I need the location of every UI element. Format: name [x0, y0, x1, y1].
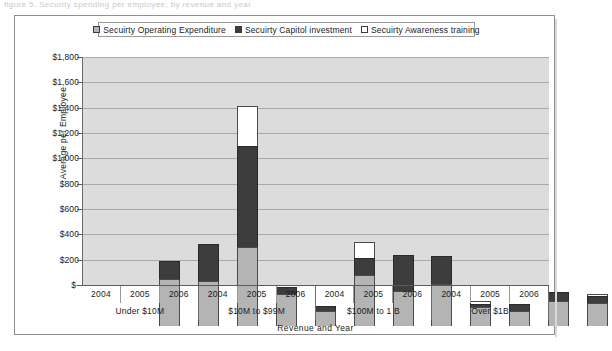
x-tick-year: 2004: [199, 286, 238, 303]
bar-segment-operating: [587, 303, 608, 326]
bar-segment-awareness: [237, 106, 258, 145]
gridline: [83, 57, 549, 58]
legend-label-awareness: Secuirty Awareness training: [371, 25, 480, 35]
bar-slot: [578, 98, 612, 326]
x-tick-year: 2006: [510, 286, 549, 303]
legend-item-awareness: Secuirty Awareness training: [361, 25, 480, 35]
y-tick-mark: [77, 133, 82, 134]
bar-segment-capitol: [159, 261, 180, 279]
y-tick-label: $1,000: [33, 153, 79, 163]
y-tick-mark: [77, 260, 82, 261]
x-tick-group: $10M to $99M: [199, 303, 316, 320]
bar-segment-operating: [548, 301, 569, 326]
plot-area: [82, 57, 549, 285]
x-tick-year: 2005: [238, 286, 277, 303]
x-tick-group: $100M to 1 B: [316, 303, 433, 320]
bar-segment-awareness: [354, 242, 375, 258]
y-tick-mark: [77, 209, 82, 210]
legend-swatch-operating-icon: [93, 26, 100, 33]
y-tick-mark: [77, 234, 82, 235]
bar-segment-capitol: [354, 258, 375, 276]
x-tick-group: Over $1B: [432, 303, 549, 320]
x-tick-year: 2004: [82, 286, 121, 303]
x-axis-title: Revenue and Year: [82, 323, 549, 333]
y-tick-label: $1,200: [33, 128, 79, 138]
bar-segment-capitol: [431, 256, 452, 285]
y-axis-tick-labels: $1,800$1,600$1,400$1,200$1,000$800$600$4…: [27, 57, 79, 285]
x-tick-year: 2005: [121, 286, 160, 303]
x-axis: 2004200520062004200520062004200520062004…: [82, 286, 549, 333]
x-tick-year: 2005: [471, 286, 510, 303]
x-axis-group-row: Under $10M$10M to $99M$100M to 1 BOver $…: [82, 303, 549, 320]
legend-swatch-awareness-icon: [361, 26, 368, 33]
y-tick-mark: [77, 285, 82, 286]
x-tick-year: 2004: [316, 286, 355, 303]
x-tick-year: 2006: [160, 286, 199, 303]
legend-swatch-capitol-icon: [235, 26, 242, 33]
x-tick-year: 2006: [393, 286, 432, 303]
y-tick-label: $400: [33, 229, 79, 239]
y-tick-label: $1,800: [33, 52, 79, 62]
y-tick-label: $1,400: [33, 103, 79, 113]
legend-item-operating: Secuirty Operating Expenditure: [93, 25, 226, 35]
y-tick-label: $200: [33, 255, 79, 265]
x-tick-year: 2006: [277, 286, 316, 303]
y-tick-label: $600: [33, 204, 79, 214]
stacked-bar[interactable]: [548, 292, 569, 326]
stacked-bar[interactable]: [587, 294, 608, 326]
x-tick-year: 2005: [354, 286, 393, 303]
y-tick-mark: [77, 158, 82, 159]
y-tick-label: $1,600: [33, 77, 79, 87]
bar-segment-capitol: [237, 146, 258, 248]
legend-item-capitol: Secuirty Capitol investment: [235, 25, 352, 35]
bar-segment-capitol: [587, 296, 608, 303]
legend-label-capitol: Secuirty Capitol investment: [245, 25, 352, 35]
y-tick-label: $-: [33, 280, 79, 290]
x-axis-year-row: 2004200520062004200520062004200520062004…: [82, 286, 549, 303]
x-tick-year: 2004: [432, 286, 471, 303]
legend-label-operating: Secuirty Operating Expenditure: [103, 25, 226, 35]
bar-segment-capitol: [548, 292, 569, 302]
y-tick-mark: [77, 82, 82, 83]
y-tick-mark: [77, 108, 82, 109]
bar-segment-capitol: [198, 244, 219, 280]
y-tick-mark: [77, 57, 82, 58]
x-tick-group: Under $10M: [82, 303, 199, 320]
scan-bleed-text: figure 5. Security spending per employee…: [0, 0, 575, 14]
gridline: [83, 82, 549, 83]
chart-legend: Secuirty Operating Expenditure Secuirty …: [98, 22, 475, 37]
chart-container: Secuirty Operating Expenditure Secuirty …: [14, 15, 555, 335]
y-tick-mark: [77, 184, 82, 185]
y-tick-label: $800: [33, 179, 79, 189]
